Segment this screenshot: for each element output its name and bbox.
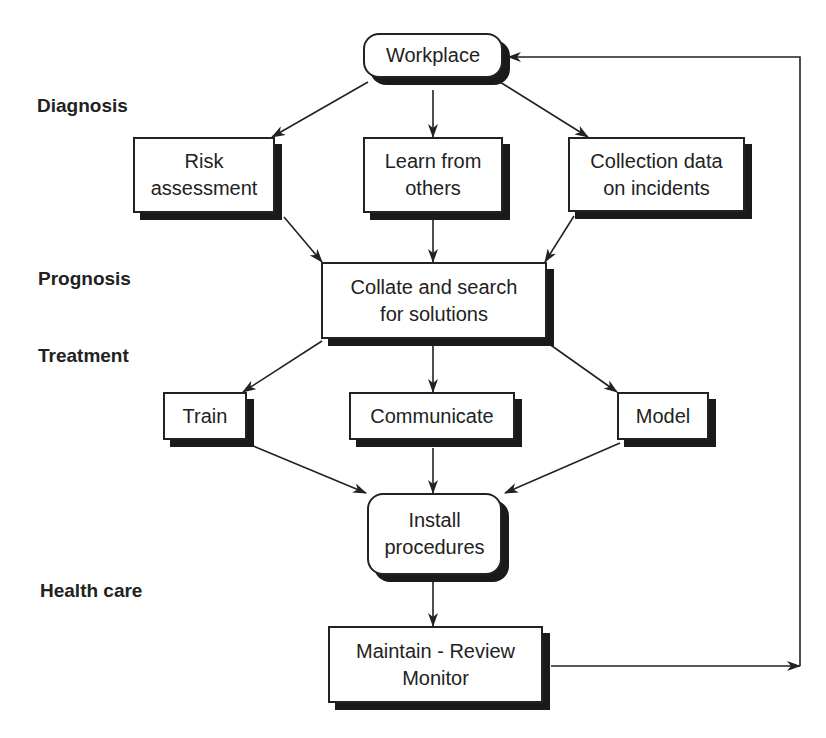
node-workplace: Workplace (363, 33, 503, 78)
node-communicate: Communicate (349, 392, 515, 440)
stage-label-prognosis: Prognosis (38, 268, 131, 290)
node-label: Model (636, 403, 690, 430)
node-label: Train (183, 403, 228, 430)
node-risk-assessment: Risk assessment (133, 137, 275, 213)
node-learn-from-others: Learn from others (363, 137, 503, 213)
node-label: Collate and search for solutions (351, 274, 518, 328)
stage-label-treatment: Treatment (38, 345, 129, 367)
node-model: Model (617, 392, 709, 440)
node-train: Train (163, 392, 247, 440)
node-maintain-review-monitor: Maintain - Review Monitor (328, 626, 543, 703)
node-label: Risk assessment (151, 148, 258, 202)
stage-label-diagnosis: Diagnosis (37, 95, 128, 117)
node-collate-and-search: Collate and search for solutions (321, 262, 547, 339)
node-install-procedures: Install procedures (367, 493, 502, 575)
node-label: Communicate (370, 403, 493, 430)
node-collection-data-on-incidents: Collection data on incidents (568, 137, 745, 212)
stage-label-health-care: Health care (40, 580, 142, 602)
node-label: Workplace (386, 42, 480, 69)
node-label: Install procedures (384, 507, 484, 561)
node-label: Learn from others (385, 148, 482, 202)
node-label: Collection data on incidents (590, 148, 722, 202)
node-label: Maintain - Review Monitor (356, 638, 515, 692)
